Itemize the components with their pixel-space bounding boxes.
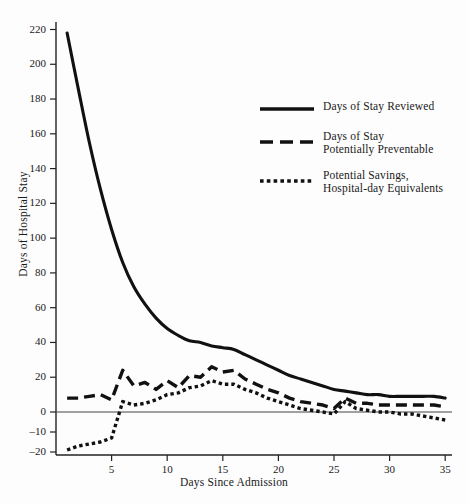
x-tick-label: 25: [314, 463, 354, 475]
legend-label-line-1: Days of Stay Reviewed: [323, 100, 434, 113]
legend-swatch-dotted: [258, 170, 316, 186]
y-tick-label: 180: [0, 92, 46, 104]
legend-label-line-2: Hospital-day Equivalents: [323, 182, 443, 195]
x-tick-label: 30: [370, 463, 410, 475]
legend-label-days-of-stay-reviewed: Days of Stay Reviewed: [316, 100, 434, 113]
legend-swatch-solid: [258, 101, 316, 117]
y-axis-title: Days of Hospital Stay: [17, 149, 29, 299]
y-tick-label: 60: [0, 301, 46, 313]
x-tick-label: 10: [147, 463, 187, 475]
legend-item-potential-savings: Potential Savings, Hospital-day Equivale…: [258, 169, 463, 195]
y-tick-label: 220: [0, 23, 46, 35]
x-axis-ticks: [112, 455, 446, 461]
y-tick-label: 160: [0, 127, 46, 139]
y-tick-label: 200: [0, 57, 46, 69]
legend-item-potentially-preventable: Days of Stay Potentially Preventable: [258, 130, 463, 156]
chart-legend: Days of Stay Reviewed Days of Stay Poten…: [258, 100, 463, 208]
x-axis-title: Days Since Admission: [0, 476, 468, 488]
y-axis-ticks: [50, 30, 56, 453]
x-tick-label: 20: [258, 463, 298, 475]
y-tick-label: –20: [0, 445, 46, 457]
x-tick-label: 35: [425, 463, 465, 475]
y-tick-label: 20: [0, 370, 46, 382]
x-tick-label: 15: [203, 463, 243, 475]
data-series-group: [67, 33, 445, 450]
legend-label-potential-savings: Potential Savings, Hospital-day Equivale…: [316, 169, 443, 195]
legend-item-days-of-stay-reviewed: Days of Stay Reviewed: [258, 100, 463, 117]
legend-swatch-dashed: [258, 131, 316, 147]
legend-label-potentially-preventable: Days of Stay Potentially Preventable: [316, 130, 433, 156]
y-tick-label: 40: [0, 335, 46, 347]
series-line-0: [67, 33, 445, 398]
legend-label-line-1: Days of Stay: [323, 130, 433, 143]
chart-figure: –20–10020406080100120140160180200220 510…: [0, 0, 468, 504]
y-tick-label: –10: [0, 425, 46, 437]
series-line-2: [67, 381, 445, 450]
y-tick-label: 0: [0, 405, 46, 417]
legend-label-line-1: Potential Savings,: [323, 169, 443, 182]
legend-label-line-2: Potentially Preventable: [323, 143, 433, 156]
x-tick-label: 5: [92, 463, 132, 475]
chart-plot-area: [0, 0, 468, 504]
